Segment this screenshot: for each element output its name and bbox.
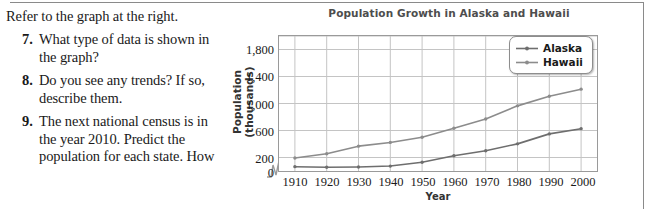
x-tick-label: 1970 — [475, 175, 500, 190]
question-number-9: 9. — [22, 113, 39, 130]
x-tick-label: 1960 — [443, 175, 468, 190]
intro-instruction: Refer to the graph at the right. — [6, 8, 222, 25]
x-tick-label: 1940 — [379, 175, 404, 190]
x-tick-label: 2000 — [571, 175, 596, 190]
question-item-8: 8. Do you see any trends? If so, describ… — [6, 72, 222, 107]
chart-title: Population Growth in Alaska and Hawaii — [262, 7, 636, 19]
question-text-7: What type of data is shown in the graph? — [39, 31, 222, 66]
x-tick-label: 1920 — [315, 175, 340, 190]
x-tick-label: 1990 — [539, 175, 564, 190]
chart-legend[interactable]: Alaska Hawaii — [509, 36, 593, 74]
question-column: Refer to the graph at the right. 7. What… — [6, 8, 222, 166]
y-tick-label: 0 — [268, 166, 274, 181]
question-item-9: 9. The next national census is in the ye… — [6, 113, 222, 166]
y-tick-label: 1,000 — [246, 97, 274, 112]
legend-line-marker-hawaii — [516, 58, 538, 67]
x-tick-label: 1910 — [283, 175, 308, 190]
question-number-7: 7. — [22, 31, 39, 48]
y-tick-label: 200 — [255, 152, 274, 167]
legend-label-alaska: Alaska — [543, 42, 582, 54]
question-text-8: Do you see any trends? If so, describe t… — [39, 72, 222, 107]
x-axis-title: Year — [278, 191, 598, 202]
y-tick-label: 600 — [255, 124, 274, 139]
legend-label-hawaii: Hawaii — [543, 56, 583, 68]
question-item-7: 7. What type of data is shown in the gra… — [6, 31, 222, 66]
x-tick-label: 1980 — [507, 175, 532, 190]
question-text-9: The next national census is in the year … — [39, 113, 222, 166]
legend-entry-alaska[interactable]: Alaska — [516, 41, 583, 55]
legend-line-marker-alaska — [516, 44, 538, 53]
y-tick-label: 1,800 — [246, 42, 274, 57]
chart-figure: Population Growth in Alaska and Hawaii P… — [222, 2, 636, 209]
x-tick-label: 1930 — [347, 175, 372, 190]
x-tick-label: 1950 — [411, 175, 436, 190]
question-number-8: 8. — [22, 72, 39, 89]
y-tick-label: 1,400 — [246, 70, 274, 85]
page-vertical-rule — [643, 2, 644, 209]
legend-entry-hawaii[interactable]: Hawaii — [516, 55, 583, 69]
